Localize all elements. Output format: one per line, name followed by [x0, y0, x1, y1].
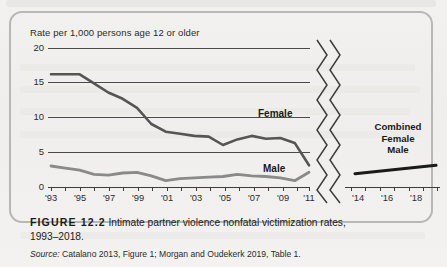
- series-label-female: Female: [258, 108, 292, 119]
- axis-break-zigzag-left: [317, 40, 327, 203]
- figure-number: FIGURE 12.2: [30, 216, 106, 228]
- combined-legend: Combined Female Male: [361, 121, 435, 156]
- axis-break-zigzag-right: [330, 40, 340, 203]
- source-prefix: Source:: [30, 249, 60, 259]
- source-text: Catalano 2013, Figure 1; Morgan and Oude…: [62, 249, 301, 259]
- combined-legend-line1: Combined: [361, 121, 435, 133]
- series-line-female: [51, 74, 309, 165]
- combined-legend-line2: Female: [361, 133, 435, 145]
- series-line-combined: [355, 165, 436, 173]
- series-label-male: Male: [263, 163, 285, 174]
- figure-source: Source: Catalano 2013, Figure 1; Morgan …: [30, 249, 430, 259]
- figure-caption: FIGURE 12.2 Intimate partner violence no…: [30, 216, 360, 243]
- combined-legend-line3: Male: [361, 144, 435, 156]
